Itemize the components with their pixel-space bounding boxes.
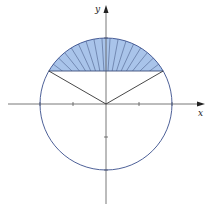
radius-right	[106, 71, 163, 104]
x-axis-label: x	[198, 108, 203, 118]
circle-segment-diagram: x y	[0, 0, 216, 204]
x-axis-arrow-icon	[197, 102, 205, 107]
y-axis-arrow-icon	[104, 5, 109, 13]
y-axis-label: y	[94, 4, 101, 14]
radius-left	[49, 71, 106, 104]
